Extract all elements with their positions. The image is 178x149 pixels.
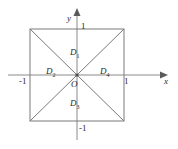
math-figure: D1 D2 D3 D4 O y x 1 -1 1 -1: [0, 0, 178, 149]
x-tick-label-positive-one: 1: [124, 77, 129, 86]
region-label-d4: D4: [100, 67, 110, 78]
y-tick-label-negative-one: -1: [79, 124, 87, 133]
x-axis-group: [8, 72, 168, 79]
origin-dot: [75, 73, 78, 76]
x-axis-label: x: [164, 77, 168, 86]
region-label-d3: D3: [70, 99, 80, 110]
origin-label: O: [71, 80, 78, 89]
y-tick-label-positive-one: 1: [81, 22, 86, 31]
region-label-d1: D1: [70, 48, 80, 59]
y-axis-arrowhead: [74, 8, 81, 16]
region-label-d2: D2: [46, 67, 56, 78]
x-tick-label-negative-one: -1: [19, 77, 27, 86]
figure-canvas: [0, 0, 178, 149]
y-axis-label: y: [67, 14, 71, 23]
